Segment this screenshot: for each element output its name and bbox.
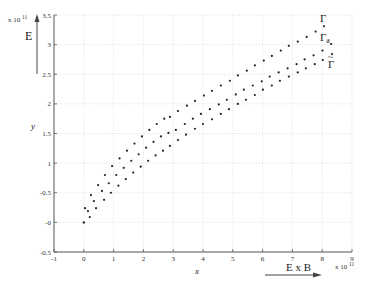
data-point	[87, 210, 89, 212]
data-point	[111, 165, 113, 167]
data-point	[237, 103, 239, 105]
data-point	[90, 194, 92, 196]
data-point	[152, 141, 154, 143]
data-point	[177, 139, 179, 141]
x-tick-label: 0	[82, 255, 86, 263]
data-point	[115, 174, 117, 176]
data-point	[211, 90, 213, 92]
data-point	[262, 89, 264, 91]
data-point	[254, 64, 256, 66]
exb-label: E x B	[286, 261, 311, 273]
data-point	[314, 63, 316, 65]
x-tick-label: 6	[261, 255, 265, 263]
y-multiplier-label: x 10 11	[8, 14, 28, 24]
data-point	[269, 76, 271, 78]
data-point	[169, 116, 171, 118]
data-point	[288, 45, 290, 47]
data-point	[123, 167, 125, 169]
grid-lines	[54, 15, 352, 252]
data-point	[235, 93, 237, 95]
data-point	[133, 142, 135, 144]
e-field-arrow: E	[25, 14, 40, 74]
data-point	[84, 207, 86, 209]
data-point	[245, 99, 247, 101]
series-label-gamma-a: Γa	[320, 31, 330, 45]
data-point	[184, 123, 186, 125]
data-point	[323, 25, 325, 27]
x-multiplier-label: x 10 11	[335, 261, 355, 271]
data-point	[194, 128, 196, 130]
data-point	[194, 100, 196, 102]
data-point	[304, 58, 306, 60]
data-point	[192, 118, 194, 120]
y-tick-label: 2.5	[42, 71, 51, 79]
series-1	[87, 43, 332, 212]
data-point	[138, 153, 140, 155]
x-tick-label: 1	[112, 255, 116, 263]
y-tick-label: -0.5	[40, 249, 52, 257]
data-point	[220, 84, 222, 86]
x-tick-label: 8	[320, 255, 324, 263]
data-point	[203, 94, 205, 96]
data-point	[167, 132, 169, 134]
e-field-label: E	[25, 29, 32, 43]
data-point	[118, 157, 120, 159]
data-point	[229, 80, 231, 82]
data-point	[103, 199, 105, 201]
y-axis-label: y	[30, 121, 35, 131]
data-point	[297, 71, 299, 73]
data-point	[101, 190, 103, 192]
data-point	[108, 182, 110, 184]
data-point	[278, 71, 280, 73]
data-point	[218, 103, 220, 105]
data-point	[226, 99, 228, 101]
data-point	[243, 89, 245, 91]
exb-arrow-head-icon	[313, 273, 322, 278]
data-point	[145, 147, 147, 149]
data-point	[287, 67, 289, 69]
e-arrow-head-icon	[35, 14, 40, 22]
data-point	[140, 166, 142, 168]
data-point	[297, 41, 299, 43]
series-2	[89, 53, 333, 218]
exb-arrow: E x B	[265, 261, 322, 278]
y-tick-label: 1	[48, 160, 52, 168]
x-axis-label: x	[194, 266, 199, 276]
data-point	[104, 174, 106, 176]
data-point	[185, 134, 187, 136]
data-point	[246, 70, 248, 72]
x-tick-label: 3	[171, 255, 175, 263]
data-point	[125, 178, 127, 180]
data-point	[322, 59, 324, 61]
data-point	[228, 108, 230, 110]
data-point	[110, 192, 112, 194]
data-point	[89, 216, 91, 218]
data-point	[177, 110, 179, 112]
data-point	[202, 123, 204, 125]
data-point	[252, 84, 254, 86]
data-point	[261, 80, 263, 82]
x-tick-label: 5	[231, 255, 235, 263]
data-point	[132, 172, 134, 174]
data-point	[295, 63, 297, 65]
data-point	[280, 49, 282, 51]
data-point	[126, 150, 128, 152]
data-point	[305, 67, 307, 69]
x-tick-label: 2	[142, 255, 146, 263]
data-point	[169, 145, 171, 147]
data-point	[330, 43, 332, 45]
data-point	[162, 150, 164, 152]
data-point	[220, 113, 222, 115]
y-tick-label: 3	[48, 41, 52, 49]
data-point	[271, 84, 273, 86]
data-point	[95, 207, 97, 209]
data-point	[130, 160, 132, 162]
data-point	[321, 49, 323, 51]
data-point	[148, 129, 150, 131]
x-tick-label: 4	[201, 255, 205, 263]
scatter-chart: -10123456789 -0.5-0-0.511.522.533.5 x 10…	[0, 0, 369, 290]
data-point	[200, 113, 202, 115]
x-tick-label: -1	[51, 255, 57, 263]
data-point	[175, 129, 177, 131]
data-points	[83, 25, 334, 223]
